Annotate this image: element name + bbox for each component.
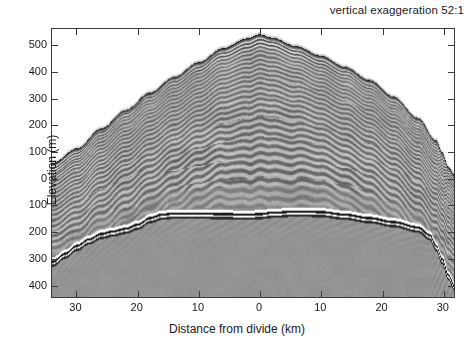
y-tick-mark-right xyxy=(448,179,454,180)
x-tick-label: 0 xyxy=(256,301,262,313)
x-tick-mark xyxy=(138,291,139,297)
x-tick-mark-top xyxy=(76,29,77,35)
y-tick-mark-right xyxy=(448,152,454,153)
x-tick-mark xyxy=(76,291,77,297)
x-tick-label: 20 xyxy=(131,301,143,313)
y-axis-title: Elevation (m) xyxy=(45,70,59,270)
y-tick-mark-right xyxy=(448,45,454,46)
x-tick-mark-top xyxy=(444,29,445,35)
y-tick-mark-right xyxy=(448,125,454,126)
x-tick-mark xyxy=(199,291,200,297)
x-tick-mark xyxy=(260,291,261,297)
x-tick-mark xyxy=(321,291,322,297)
x-tick-mark-top xyxy=(383,29,384,35)
x-tick-mark xyxy=(444,291,445,297)
figure-title: vertical exaggeration 52:1 xyxy=(330,4,464,16)
x-tick-mark xyxy=(383,291,384,297)
x-tick-mark-top xyxy=(321,29,322,35)
x-tick-mark-top xyxy=(199,29,200,35)
y-tick-mark-right xyxy=(448,72,454,73)
y-tick-label: 400 xyxy=(29,279,47,291)
x-tick-label: 30 xyxy=(69,301,81,313)
y-tick-label: 200 xyxy=(29,118,47,130)
y-tick-mark-right xyxy=(448,99,454,100)
y-tick-label: 100 xyxy=(29,145,47,157)
y-tick-mark xyxy=(52,286,58,287)
x-tick-label: 30 xyxy=(437,301,449,313)
y-tick-label: 200 xyxy=(29,225,47,237)
y-tick-label: 400 xyxy=(29,65,47,77)
y-tick-mark-right xyxy=(448,286,454,287)
y-tick-label: 500 xyxy=(29,38,47,50)
x-tick-mark-top xyxy=(138,29,139,35)
x-tick-label: 20 xyxy=(375,301,387,313)
y-tick-mark-right xyxy=(448,259,454,260)
y-tick-mark xyxy=(52,45,58,46)
x-tick-label: 10 xyxy=(314,301,326,313)
plot-area xyxy=(51,28,455,298)
radargram-figure: vertical exaggeration 52:1 Elevation (m)… xyxy=(0,0,474,345)
y-tick-label: 0 xyxy=(41,172,47,184)
y-tick-label: 300 xyxy=(29,92,47,104)
y-tick-label: 300 xyxy=(29,252,47,264)
x-tick-label: 10 xyxy=(192,301,204,313)
x-axis-title: Distance from divide (km) xyxy=(0,322,474,336)
radargram-image xyxy=(52,29,454,297)
y-tick-mark-right xyxy=(448,232,454,233)
y-tick-label: 100 xyxy=(29,198,47,210)
y-tick-mark-right xyxy=(448,205,454,206)
x-tick-mark-top xyxy=(260,29,261,35)
